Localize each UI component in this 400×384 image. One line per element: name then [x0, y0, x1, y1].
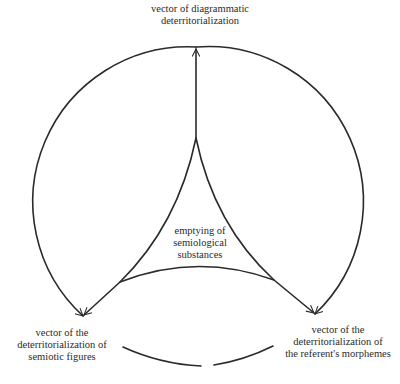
label-right-line-3: the referent's morphemes — [276, 348, 400, 360]
label-center-line-1: emptying of — [150, 225, 250, 237]
label-top-vector: vector of diagrammatic deterritorializat… — [100, 3, 300, 27]
label-right-line-2: deterritorialization of — [276, 336, 400, 348]
label-center-line-2: semiological — [150, 237, 250, 249]
label-left-line-1: vector of the — [0, 327, 124, 339]
label-left-line-2: deterritorialization of — [0, 339, 124, 351]
triangle-bottom-side — [120, 266, 274, 282]
outer-arc-left — [33, 47, 196, 316]
bottom-arc-right — [214, 346, 273, 365]
label-bottom-left-vector: vector of the deterritorialization of se… — [0, 327, 124, 363]
label-center-node: emptying of semiological substances — [150, 225, 250, 261]
label-right-line-1: vector of the — [276, 324, 400, 336]
bottom-arc-left — [123, 347, 201, 366]
label-center-line-3: substances — [150, 249, 250, 261]
label-top-line-1: vector of diagrammatic — [100, 3, 300, 15]
label-top-line-2: deterritorialization — [100, 15, 300, 27]
label-left-line-3: semiotic figures — [0, 351, 124, 363]
label-bottom-right-vector: vector of the deterritorialization of th… — [276, 324, 400, 360]
outer-arc-right — [196, 47, 363, 314]
